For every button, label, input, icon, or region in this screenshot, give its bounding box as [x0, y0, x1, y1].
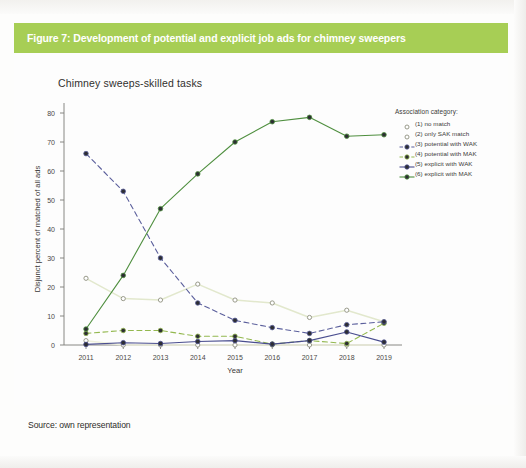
data-point — [121, 273, 126, 278]
data-point — [121, 328, 126, 333]
series-line — [86, 117, 384, 329]
data-point — [307, 338, 312, 343]
data-point — [84, 331, 89, 336]
legend-item-label: (6) explicit with MAK — [415, 170, 472, 177]
data-point — [158, 298, 162, 302]
data-point — [195, 172, 200, 177]
y-axis-tick-label: 30 — [47, 255, 55, 262]
legend-swatch-icon — [399, 138, 415, 148]
legend-item-2[interactable]: (2) only SAK match — [399, 128, 505, 138]
figure-caption-bar: Figure 7: Development of potential and e… — [14, 23, 508, 53]
data-point — [270, 119, 275, 124]
scan-edge-top — [0, 0, 526, 14]
data-point — [270, 342, 275, 347]
x-axis-tick-label: 2018 — [339, 354, 355, 361]
legend-swatch-icon — [399, 118, 415, 128]
x-axis-tick-label: 2012 — [115, 354, 131, 361]
legend-swatch-icon — [399, 128, 415, 138]
series-line — [86, 154, 384, 334]
x-axis-tick-label: 2011 — [78, 354, 93, 361]
legend-item-label: (1) no match — [415, 120, 450, 127]
scan-edge-right — [514, 0, 526, 468]
data-point — [382, 340, 387, 345]
data-point — [121, 297, 125, 301]
x-axis-tick-label: 2014 — [190, 354, 206, 361]
scan-edge-bottom — [0, 456, 526, 468]
legend-title: Association category: — [395, 108, 505, 115]
data-point — [84, 327, 89, 332]
legend-item-1[interactable]: (1) no match — [399, 118, 505, 128]
data-point — [158, 256, 163, 261]
data-point — [344, 322, 349, 327]
line-chart-plot: 0102030405060708020112012201320142015201… — [14, 53, 508, 405]
data-point — [270, 325, 275, 330]
y-axis-tick-label: 0 — [51, 342, 55, 349]
data-point — [270, 301, 274, 305]
y-axis-tick-label: 50 — [47, 197, 55, 204]
series-2 — [84, 276, 386, 324]
chart-panel: Chimney sweeps-skilled tasks 01020304050… — [14, 53, 508, 405]
y-axis-tick-label: 20 — [47, 284, 55, 291]
data-point — [233, 298, 237, 302]
legend-item-label: (2) only SAK match — [415, 130, 469, 137]
legend-swatch-icon — [399, 168, 415, 178]
data-point — [344, 330, 349, 335]
data-point — [233, 318, 238, 323]
x-axis-tick-label: 2015 — [227, 354, 243, 361]
y-axis-tick-label: 60 — [47, 168, 55, 175]
y-axis-tick-label: 80 — [47, 110, 55, 117]
legend-item-label: (3) potential with WAK — [415, 140, 477, 147]
data-point — [195, 334, 200, 339]
legend-item-4[interactable]: (4) potential with MAK — [399, 148, 505, 158]
y-axis-tick-label: 70 — [47, 139, 55, 146]
data-point — [307, 115, 312, 120]
x-axis-tick-label: 2013 — [153, 354, 169, 361]
legend-item-3[interactable]: (3) potential with WAK — [399, 138, 505, 148]
figure-caption-text: Figure 7: Development of potential and e… — [14, 32, 406, 44]
data-point — [307, 343, 311, 347]
data-point — [233, 338, 238, 343]
series-3 — [84, 151, 387, 335]
data-point — [344, 341, 349, 346]
series-layer — [84, 115, 387, 347]
data-point — [84, 276, 88, 280]
legend-item-label: (4) potential with MAK — [415, 150, 477, 157]
legend-item-label: (5) explicit with WAK — [415, 160, 473, 167]
data-point — [233, 343, 237, 347]
data-point — [84, 151, 89, 156]
data-point — [344, 134, 349, 139]
data-point — [307, 331, 312, 336]
x-axis-tick-label: 2019 — [376, 354, 392, 361]
chart-legend: Association category: (1) no match(2) on… — [395, 108, 505, 178]
y-axis-tick-label: 40 — [47, 226, 55, 233]
data-point — [196, 282, 200, 286]
data-point — [345, 308, 349, 312]
data-point — [195, 301, 200, 306]
legend-swatch-icon — [399, 148, 415, 158]
legend-item-6[interactable]: (6) explicit with MAK — [399, 168, 505, 178]
data-point — [158, 328, 163, 333]
data-point — [382, 132, 387, 137]
data-point — [121, 189, 126, 194]
figure-container: Figure 7: Development of potential and e… — [0, 0, 526, 468]
source-note: Source: own representation — [28, 420, 131, 430]
data-point — [158, 206, 163, 211]
data-point — [307, 315, 311, 319]
data-point — [233, 334, 238, 339]
legend-rows: (1) no match(2) only SAK match(3) potent… — [395, 118, 505, 178]
y-axis-tick-label: 10 — [47, 313, 55, 320]
data-point — [382, 320, 387, 325]
x-axis-tick-label: 2016 — [264, 354, 280, 361]
legend-swatch-icon — [399, 158, 415, 168]
legend-item-5[interactable]: (5) explicit with WAK — [399, 158, 505, 168]
y-axis-title: Disjunct percent of matched of all ads — [33, 165, 42, 292]
data-point — [84, 342, 89, 347]
data-point — [195, 339, 200, 344]
data-point — [233, 140, 238, 145]
x-axis-tick-label: 2017 — [302, 354, 318, 361]
x-axis-title: Year — [227, 366, 243, 375]
data-point — [121, 340, 126, 345]
data-point — [158, 341, 163, 346]
